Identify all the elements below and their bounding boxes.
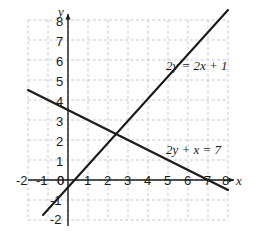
y-tick-label: 5 bbox=[56, 75, 63, 88]
y-tick-label: 4 bbox=[56, 95, 63, 108]
x-tick-label: 7 bbox=[204, 174, 211, 187]
plot-area bbox=[0, 0, 262, 231]
y-tick-label: -1 bbox=[50, 194, 62, 207]
y-tick-label: 6 bbox=[56, 55, 63, 68]
x-tick-label: 5 bbox=[164, 174, 171, 187]
y-tick-label: 1 bbox=[56, 155, 63, 168]
x-tick-label: -2 bbox=[16, 174, 28, 187]
x-tick-label: 8 bbox=[222, 174, 229, 187]
x-tick-label: 2 bbox=[104, 174, 111, 187]
y-tick-label: -2 bbox=[50, 213, 62, 226]
x-tick-label: -1 bbox=[36, 174, 48, 187]
y-tick-label-zero: 0 bbox=[57, 174, 64, 187]
y-tick-label: 3 bbox=[56, 115, 63, 128]
y-tick-label: 2 bbox=[56, 135, 63, 148]
x-axis-label: x bbox=[236, 174, 242, 187]
y-tick-label: 7 bbox=[56, 35, 63, 48]
x-tick-label: 1 bbox=[84, 174, 91, 187]
equation-label-line2: 2y + x = 7 bbox=[166, 143, 221, 156]
x-tick-label: 6 bbox=[184, 174, 191, 187]
x-tick-label: 4 bbox=[144, 174, 151, 187]
y-axis-label: y bbox=[58, 5, 64, 18]
equation-label-line1: 2y = 2x + 1 bbox=[166, 59, 228, 72]
coordinate-graph: -2 -1 0 1 2 3 4 5 6 7 8 8 7 6 5 4 3 2 1 … bbox=[0, 0, 262, 231]
x-tick-label: 3 bbox=[124, 174, 131, 187]
